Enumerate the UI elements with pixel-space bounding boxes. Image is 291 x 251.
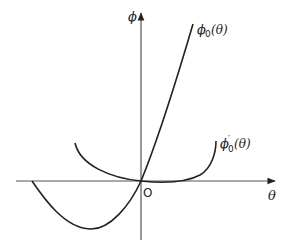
phi0-curve: [32, 24, 193, 229]
origin-label: O: [143, 186, 152, 200]
x-axis-label: θ: [268, 188, 276, 203]
diagram-canvas: ϕ θ O ϕ 0 (θ) ϕ ′ 0 (θ): [0, 0, 291, 251]
phi0-prime-curve: [75, 141, 216, 182]
svg-text:′: ′: [228, 134, 230, 144]
phi0-label: ϕ 0 (θ): [197, 22, 228, 39]
y-axis-label: ϕ: [128, 9, 137, 24]
svg-text:(θ): (θ): [211, 23, 228, 37]
phi0-prime-label: ϕ ′ 0 (θ): [220, 134, 251, 154]
svg-text:(θ): (θ): [234, 137, 251, 151]
